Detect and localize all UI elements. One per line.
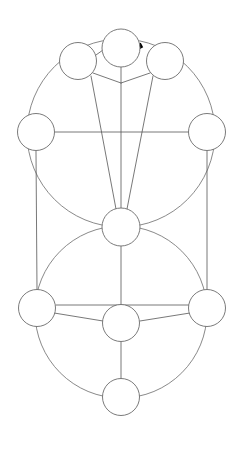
node-mid-left[interactable] bbox=[18, 114, 55, 151]
node-top-left[interactable] bbox=[60, 43, 97, 80]
node-low-center[interactable] bbox=[103, 305, 140, 342]
path-topright-fan bbox=[121, 73, 150, 83]
node-top-right[interactable] bbox=[147, 43, 184, 80]
node-bottom[interactable] bbox=[103, 379, 140, 416]
node-low-right[interactable] bbox=[189, 290, 226, 327]
tree-of-life-diagram bbox=[0, 0, 244, 450]
path-topleft-fan bbox=[93, 73, 121, 83]
path-midleft-lowleft bbox=[36, 151, 37, 290]
tree-diagram-canvas bbox=[0, 0, 244, 450]
node-low-left[interactable] bbox=[19, 290, 56, 327]
node-mid-right[interactable] bbox=[189, 114, 226, 151]
path-lowright-lowcenter bbox=[140, 313, 190, 321]
path-topleft-center bbox=[91, 76, 116, 209]
path-lowleft-lowcenter bbox=[54, 313, 103, 321]
node-top-center[interactable] bbox=[102, 29, 140, 67]
node-center[interactable] bbox=[102, 208, 140, 246]
path-topright-center bbox=[127, 76, 153, 209]
